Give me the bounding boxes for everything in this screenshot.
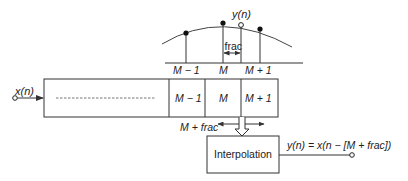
read-pointer-label: M + frac (180, 121, 219, 133)
output-terminal-icon (350, 153, 355, 158)
delay-line-frame (44, 79, 278, 117)
input-label: x(n) (14, 85, 34, 97)
output-port: y(n) = x(n − [M + frac]) (279, 139, 391, 157)
interpolation-block: Interpolation (207, 136, 279, 173)
sample-plot: y(n) frac M − 1 M M + 1 (162, 8, 303, 76)
sample-dot-m-minus-1 (183, 30, 188, 35)
sample-dot-m (220, 20, 225, 25)
read-pointer: M + frac (180, 117, 264, 136)
cell-label-m-plus-1: M + 1 (245, 92, 272, 104)
frac-label: frac (225, 40, 243, 52)
fractional-delay-diagram: y(n) frac M − 1 M M + 1 x(n) M − 1 M M +… (0, 0, 408, 181)
input-terminal-icon (13, 96, 18, 101)
input-port: x(n) (13, 85, 43, 100)
axis-label-m: M (219, 64, 228, 76)
cell-label-m-minus-1: M − 1 (175, 92, 202, 104)
output-sample-hollow-dot (239, 23, 244, 28)
read-pointer-label-text: M + frac (180, 121, 219, 133)
sample-dot-m-plus-1 (257, 26, 262, 31)
interpolation-label: Interpolation (214, 148, 272, 160)
axis-label-m-minus-1: M − 1 (173, 64, 200, 76)
hollow-down-arrow-icon (235, 117, 249, 136)
output-equation: y(n) = x(n − [M + frac]) (286, 139, 391, 151)
output-sample-label: y(n) (231, 8, 251, 20)
delay-line-buffer: M − 1 M M + 1 (44, 79, 278, 117)
cell-label-m: M (219, 92, 228, 104)
axis-label-m-plus-1: M + 1 (245, 64, 272, 76)
